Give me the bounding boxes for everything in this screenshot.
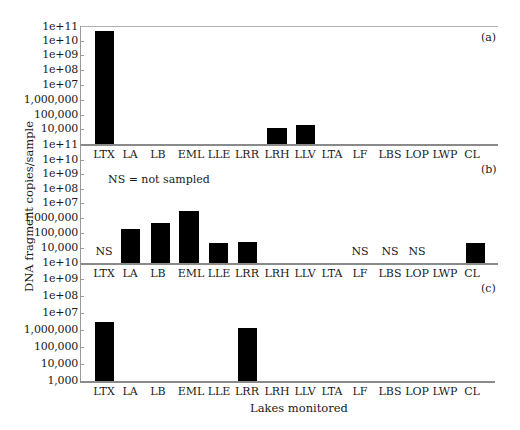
panel-a-tick: 1e+11 — [0, 21, 78, 33]
tick-mark — [80, 364, 84, 365]
panel-a-tick: 10,000 — [0, 123, 78, 135]
tick-mark — [80, 203, 84, 204]
tick-mark — [80, 189, 84, 190]
panel-a-tick: 1,000,000 — [0, 94, 78, 106]
panel-b-tick: 100,000 — [0, 227, 78, 239]
bar-b-CL — [466, 243, 485, 263]
panel-b-tick: 1e+08 — [0, 183, 78, 195]
bar-c-LRR — [238, 328, 257, 381]
panel-b-tick: 10,000 — [0, 242, 78, 254]
tick-mark — [80, 233, 84, 234]
panel-c-tick: 1e+07 — [0, 307, 78, 319]
tick-mark — [80, 296, 84, 297]
panel-a-tick: 100,000 — [0, 109, 78, 121]
tick-mark — [80, 279, 84, 280]
panel-b-y-axis — [80, 145, 81, 264]
bar-b-LRR — [238, 242, 257, 263]
tick-mark — [80, 330, 84, 331]
panel-b-tick: 1e+09 — [0, 168, 78, 180]
tick-mark — [80, 160, 84, 161]
bar-a-LLV — [296, 125, 315, 144]
panel-a-top-border — [80, 26, 498, 27]
panel-a-tick: 1e+10 — [0, 35, 78, 47]
tick-mark — [80, 55, 84, 56]
x-tick-b: CL — [452, 268, 492, 280]
panel-a-x-axis — [80, 144, 498, 146]
panel-a-tick: 1e+09 — [0, 49, 78, 61]
tick-mark — [80, 85, 84, 86]
panel-b-tick: 1,000,000 — [0, 212, 78, 224]
bar-b-LB — [151, 223, 170, 263]
tick-mark — [80, 347, 84, 348]
ns-label-LBS: NS — [375, 245, 405, 258]
panel-c-tag: (c) — [481, 282, 496, 295]
panel-b-tick: 1e+10 — [0, 154, 78, 166]
panel-a-tick: 1e+08 — [0, 64, 78, 76]
panel-a-tag: (a) — [481, 31, 496, 44]
bar-b-LA — [121, 229, 140, 263]
bar-b-EML — [179, 211, 199, 263]
tick-mark — [80, 248, 84, 249]
panel-c-tick: 10,000 — [0, 358, 78, 370]
panel-c-x-axis — [80, 381, 495, 383]
x-tick-c: CL — [452, 386, 492, 398]
tick-mark — [80, 174, 84, 175]
ns-note: NS = not sampled — [108, 173, 210, 186]
panel-a-tick: 1e+11 — [0, 139, 78, 151]
panel-b-tick: 1e+07 — [0, 197, 78, 209]
ns-label-LTX: NS — [89, 245, 119, 258]
tick-mark — [80, 129, 84, 130]
tick-mark — [80, 100, 84, 101]
bar-b-LLE — [209, 243, 228, 263]
tick-mark — [80, 313, 84, 314]
panel-b-tick: 1e+10 — [0, 257, 78, 269]
ns-label-LF: NS — [345, 245, 375, 258]
panel-c-tick: 1e+08 — [0, 290, 78, 302]
panel-c-tick: 1,000,000 — [0, 324, 78, 336]
bar-a-LRH — [267, 128, 287, 144]
bar-a-LTX — [95, 31, 114, 144]
panel-b-x-axis — [80, 263, 498, 265]
panel-c-tick: 100,000 — [0, 341, 78, 353]
panel-b-tag: (b) — [481, 163, 497, 176]
tick-mark — [80, 218, 84, 219]
panel-c-tick: 1e+09 — [0, 273, 78, 285]
x-axis-title: Lakes monitored — [250, 401, 348, 415]
ns-label-LOP: NS — [402, 245, 432, 258]
bar-c-LTX — [95, 322, 114, 381]
tick-mark — [80, 115, 84, 116]
x-tick-a: CL — [452, 149, 492, 161]
panel-a-tick: 1e+07 — [0, 79, 78, 91]
tick-mark — [80, 41, 84, 42]
tick-mark — [80, 70, 84, 71]
panel-c-tick: 1,000 — [0, 375, 78, 387]
